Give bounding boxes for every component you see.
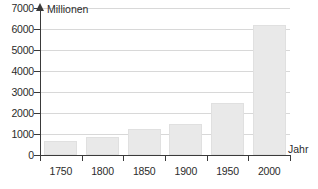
y-axis-tick-label: 7000 [11,3,34,13]
bar [86,137,119,155]
bar [128,129,161,155]
bar [211,103,244,156]
y-axis-tick-label: 6000 [11,24,34,34]
bar-chart: 01000200030004000500060007000 1750180018… [0,0,318,189]
x-axis-tick [123,155,124,161]
x-axis-title: Jahr [288,144,308,155]
x-axis-tick [165,155,166,161]
x-axis-tick [82,155,83,161]
y-axis-title: Millionen [47,4,88,15]
y-axis-tick [34,50,40,51]
x-axis-tick [207,155,208,161]
bar [253,25,286,155]
y-axis-tick-label: 4000 [11,66,34,76]
x-axis-tick-label: 2000 [244,166,294,177]
x-axis-tick [248,155,249,161]
y-axis-tick-label: 0 [28,150,34,160]
x-axis-tick [290,155,291,161]
y-axis-line [40,10,41,156]
y-axis-tick-label: 3000 [11,87,34,97]
y-axis-tick [34,134,40,135]
bar [44,141,77,155]
y-axis-tick-label: 2000 [11,108,34,118]
y-axis-arrow-icon [36,3,44,11]
y-axis-tick [34,113,40,114]
y-axis-tick [34,29,40,30]
x-axis-tick [40,155,41,161]
y-axis-tick-label: 5000 [11,45,34,55]
y-axis-tick-label: 1000 [11,129,34,139]
x-axis-line [34,155,290,156]
y-axis-tick [34,92,40,93]
y-axis-tick [34,8,40,9]
y-axis-tick [34,71,40,72]
bar [169,124,202,156]
